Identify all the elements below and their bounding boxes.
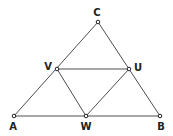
point-w-label: W — [80, 121, 91, 132]
point-u-marker — [127, 67, 131, 71]
point-u-label: U — [134, 62, 142, 73]
point-v-label: V — [44, 61, 52, 72]
segment-vw — [57, 69, 86, 116]
point-c-label: C — [93, 7, 100, 18]
triangle-diagram: ABCUVW — [0, 0, 173, 136]
point-w-marker — [84, 114, 88, 118]
point-c-marker — [96, 20, 100, 24]
point-a-marker — [12, 114, 16, 118]
point-b-marker — [158, 114, 162, 118]
segment-uw — [86, 69, 129, 116]
point-a-label: A — [9, 121, 17, 132]
labels-group: ABCUVW — [9, 7, 165, 132]
point-v-marker — [55, 67, 59, 71]
point-b-label: B — [157, 121, 165, 132]
